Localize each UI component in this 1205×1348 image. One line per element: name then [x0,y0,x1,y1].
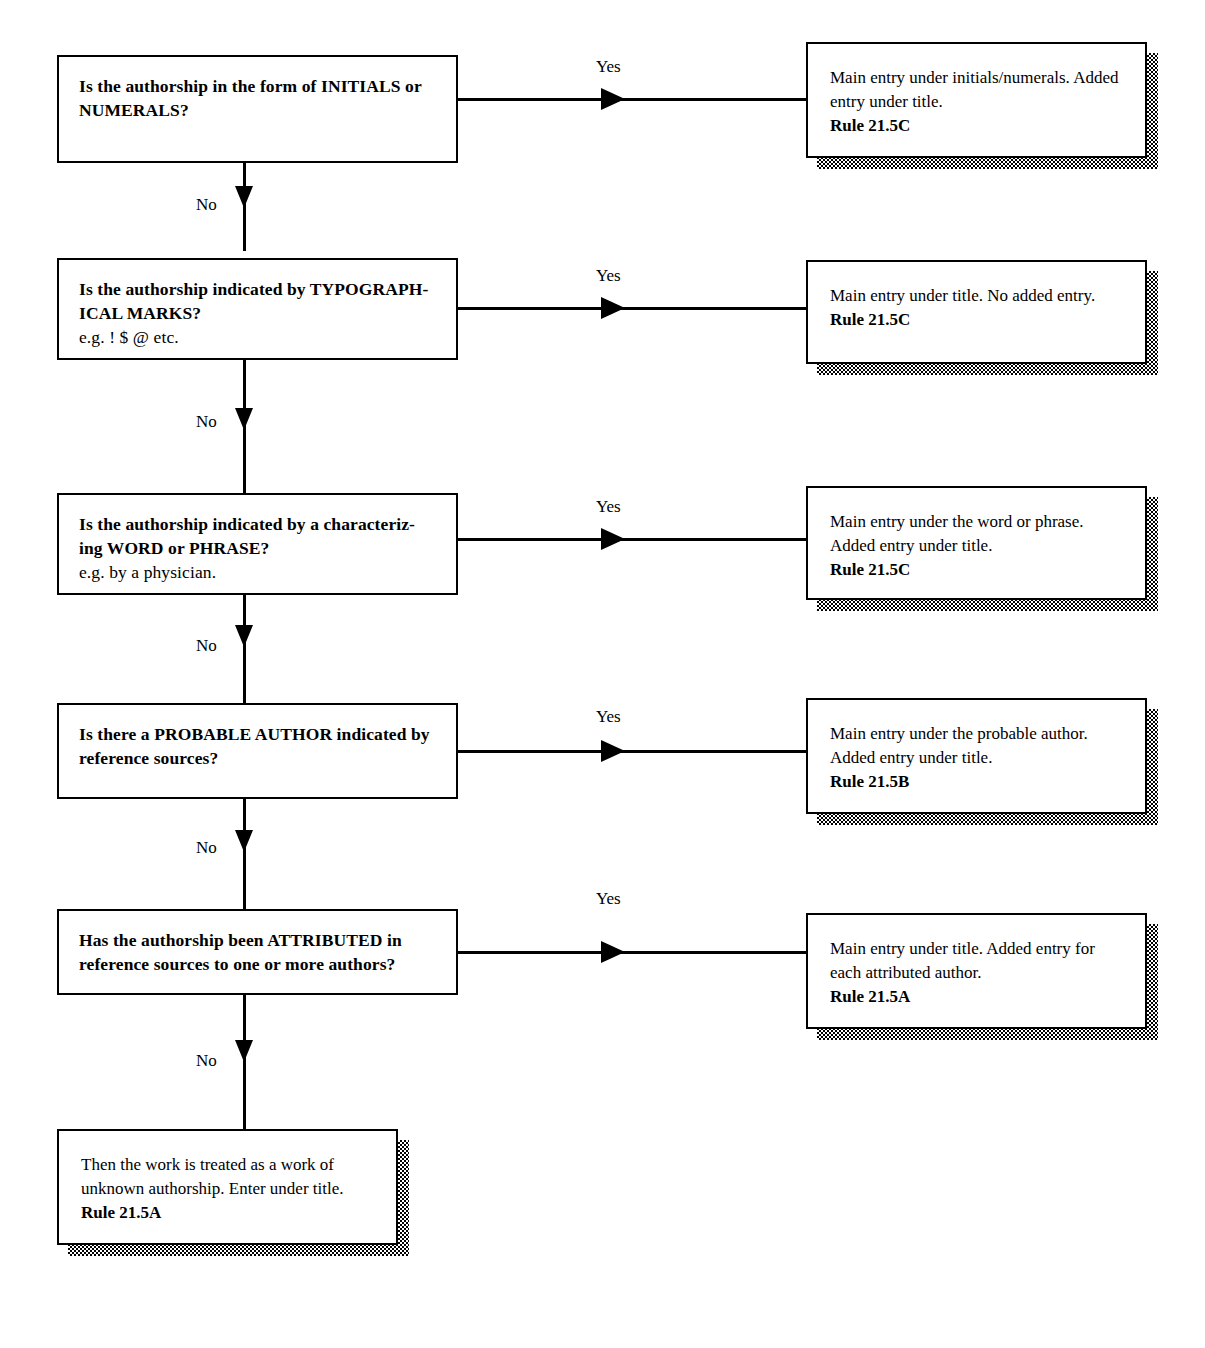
yes-label-4: Yes [596,708,621,725]
yes-arrow-4 [601,740,625,762]
question-box-1[interactable]: Is the authorship in the form of INITIAL… [57,55,458,163]
question-3-example: e.g. by a physician. [79,561,436,585]
result-1-text: Main entry under initials/numerals. Adde… [830,66,1125,114]
result-2-rule: Rule 21.5C [830,308,1125,332]
result-5-text: Main entry under title. Added entry for … [830,937,1125,985]
yes-label-5: Yes [596,890,621,907]
no-arrow-3 [235,625,253,647]
no-connector-4 [243,799,246,909]
question-box-4[interactable]: Is there a PROBABLE AUTHOR indicated by … [57,703,458,799]
yes-arrow-3 [601,528,625,550]
question-4-text: Is there a PROBABLE AUTHOR indicated by … [79,723,436,771]
yes-label-2: Yes [596,267,621,284]
no-label-2: No [196,413,217,430]
terminal-box[interactable]: Then the work is treated as a work of un… [57,1129,398,1245]
question-1-text: Is the authorship in the form of INITIAL… [79,75,436,123]
terminal-connector [243,1100,246,1130]
result-4-text: Main entry under the probable author. Ad… [830,722,1125,770]
yes-arrow-2 [601,297,625,319]
result-2-text: Main entry under title. No added entry. [830,284,1125,308]
question-box-5[interactable]: Has the authorship been ATTRIBUTED in re… [57,909,458,995]
flowchart-canvas: Is the authorship in the form of INITIAL… [0,0,1205,1348]
no-arrow-1 [235,186,253,208]
no-label-5: No [196,1052,217,1069]
no-label-1: No [196,196,217,213]
result-box-1[interactable]: Main entry under initials/numerals. Adde… [806,42,1147,158]
result-box-5[interactable]: Main entry under title. Added entry for … [806,913,1147,1029]
terminal-text: Then the work is treated as a work of un… [81,1153,376,1201]
no-arrow-4 [235,830,253,852]
yes-connector-5 [458,951,806,954]
result-box-2[interactable]: Main entry under title. No added entry. … [806,260,1147,364]
yes-connector-4 [458,750,806,753]
question-box-2[interactable]: Is the authorship indicated by TYPOGRAPH… [57,258,458,360]
question-2-example: e.g. ! $ @ etc. [79,326,436,350]
yes-arrow-5 [601,941,625,963]
result-1-rule: Rule 21.5C [830,114,1125,138]
no-label-4: No [196,839,217,856]
question-3-text: Is the authorship indicated by a charact… [79,513,436,561]
no-arrow-2 [235,408,253,430]
yes-connector-2 [458,307,806,310]
result-5-rule: Rule 21.5A [830,985,1125,1009]
no-label-3: No [196,637,217,654]
yes-label-1: Yes [596,58,621,75]
yes-arrow-1 [601,88,625,110]
yes-label-3: Yes [596,498,621,515]
result-box-4[interactable]: Main entry under the probable author. Ad… [806,698,1147,814]
result-box-3[interactable]: Main entry under the word or phrase. Add… [806,486,1147,600]
result-4-rule: Rule 21.5B [830,770,1125,794]
terminal-rule: Rule 21.5A [81,1201,376,1225]
yes-connector-3 [458,538,806,541]
result-3-rule: Rule 21.5C [830,558,1125,582]
result-3-text: Main entry under the word or phrase. Add… [830,510,1125,558]
no-connector-3 [243,595,246,703]
question-5-text: Has the authorship been ATTRIBUTED in re… [79,929,436,977]
no-arrow-5 [235,1040,253,1062]
question-2-text: Is the authorship indicated by TYPOGRAPH… [79,278,436,326]
question-box-3[interactable]: Is the authorship indicated by a charact… [57,493,458,595]
yes-connector-1 [458,98,806,101]
